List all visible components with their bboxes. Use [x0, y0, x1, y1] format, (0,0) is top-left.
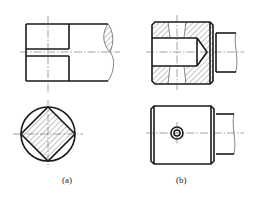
view-b-front	[146, 15, 244, 90]
view-b-side	[146, 106, 244, 164]
label-a: (a)	[62, 175, 72, 185]
view-a-end	[13, 100, 83, 168]
view-a-front	[20, 16, 120, 92]
drawing-canvas	[0, 0, 255, 202]
label-b: (b)	[176, 175, 187, 185]
